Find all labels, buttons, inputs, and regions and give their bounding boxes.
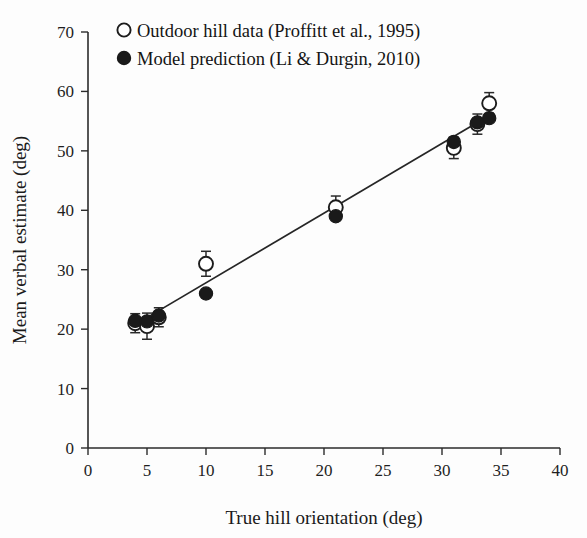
x-tick-label: 20 (316, 461, 333, 480)
y-tick-label: 70 (57, 23, 74, 42)
y-tick-label: 50 (57, 142, 74, 161)
legend-marker-open (117, 23, 130, 36)
data-point-filled (329, 210, 342, 223)
y-tick-label: 40 (57, 201, 74, 220)
scatter-plot: 0510152025303540010203040506070True hill… (0, 0, 587, 538)
x-tick-label: 35 (493, 461, 510, 480)
chart-figure: 0510152025303540010203040506070True hill… (0, 0, 587, 538)
x-tick-label: 10 (198, 461, 215, 480)
y-tick-label: 0 (66, 439, 75, 458)
data-point-filled (199, 287, 212, 300)
y-tick-label: 10 (57, 380, 74, 399)
y-axis-title: Mean verbal estimate (deg) (9, 136, 31, 344)
data-point-open (482, 96, 496, 110)
data-point-open (199, 257, 213, 271)
y-tick-label: 20 (57, 320, 74, 339)
x-tick-label: 30 (434, 461, 451, 480)
x-tick-label: 25 (375, 461, 392, 480)
x-tick-label: 40 (552, 461, 569, 480)
x-tick-label: 0 (84, 461, 93, 480)
y-tick-label: 60 (57, 82, 74, 101)
x-axis-title: True hill orientation (deg) (225, 507, 422, 529)
regression-line (130, 113, 493, 328)
data-point-filled (483, 112, 496, 125)
legend-marker-filled (117, 51, 130, 64)
data-point-filled (447, 135, 460, 148)
x-tick-label: 5 (143, 461, 152, 480)
data-point-filled (140, 315, 153, 328)
legend-label-filled: Model prediction (Li & Durgin, 2010) (137, 49, 420, 70)
data-point-filled (129, 314, 142, 327)
legend-label-open: Outdoor hill data (Proffitt et al., 1995… (137, 21, 420, 42)
y-tick-label: 30 (57, 261, 74, 280)
x-tick-label: 15 (257, 461, 274, 480)
data-point-filled (152, 309, 165, 322)
